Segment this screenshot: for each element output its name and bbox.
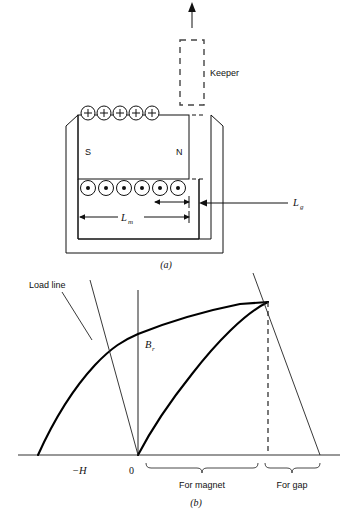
- lm-label: L: [120, 212, 127, 223]
- magnet-body: [78, 115, 189, 179]
- brace-for-gap-label: For gap: [276, 480, 307, 490]
- figure-container: Keeper: [0, 0, 353, 513]
- load-line: [90, 280, 138, 455]
- inner-dimension-arrow: [154, 196, 190, 208]
- panel-a-caption: (a): [160, 259, 172, 271]
- charge-circle: [145, 106, 159, 120]
- charge-circle: [97, 106, 111, 120]
- charge-circle: [81, 106, 95, 120]
- demagnetization-curve: [38, 302, 268, 455]
- current-dot-circle: [153, 181, 168, 196]
- current-dot-circle: [81, 181, 96, 196]
- pole-label-south: S: [85, 147, 91, 157]
- h-axis-label: −H: [72, 465, 88, 476]
- lm-label-subscript: m: [128, 218, 133, 226]
- bottom-dot-circles: [81, 181, 186, 196]
- pole-label-north: N: [176, 147, 183, 157]
- charge-circle: [129, 106, 143, 120]
- load-line-leader: [62, 292, 92, 340]
- panel-b-caption: (b): [190, 497, 202, 509]
- load-line-label: Load line: [29, 280, 66, 290]
- energy-product-curve: [138, 302, 268, 455]
- top-charge-circles: [81, 106, 159, 120]
- brace-for-magnet-label: For magnet: [179, 480, 226, 490]
- keeper-label: Keeper: [210, 68, 239, 78]
- current-dot-circle: [117, 181, 132, 196]
- panel-b-group: Load line B r −H 0 For magnet For gap (b…: [18, 273, 340, 509]
- lg-leader-arrow: [199, 200, 288, 207]
- lg-label-subscript: g: [300, 203, 304, 211]
- origin-label: 0: [129, 465, 134, 476]
- lg-label: L: [292, 197, 299, 208]
- br-label: B: [145, 339, 152, 350]
- figure-svg: Keeper: [0, 0, 353, 513]
- current-dot-circle: [99, 181, 114, 196]
- gap-line: [253, 273, 320, 455]
- current-dot-circle: [135, 181, 150, 196]
- charge-circle: [113, 106, 127, 120]
- keeper-arrow-icon: [188, 2, 196, 28]
- br-label-subscript: r: [152, 345, 155, 353]
- panel-a-group: Keeper: [66, 2, 304, 271]
- brace-for-magnet: [146, 463, 258, 473]
- brace-for-gap: [265, 463, 320, 473]
- gap-tick-marks: [192, 115, 203, 179]
- current-dot-circle: [171, 181, 186, 196]
- keeper-block: [180, 40, 204, 105]
